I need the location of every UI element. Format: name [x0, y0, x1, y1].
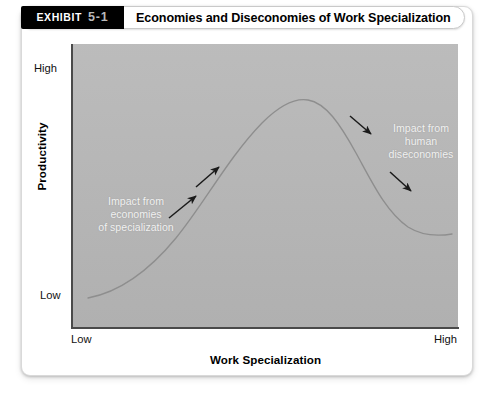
exhibit-badge-number: 5-1: [88, 11, 108, 24]
exhibit-figure: Impact from economies of specialization …: [0, 0, 500, 393]
y-axis-tick-low: Low: [40, 289, 61, 301]
exhibit-badge-word: EXHIBIT: [36, 12, 82, 23]
x-axis-title: Work Specialization: [73, 353, 458, 366]
annotation-economies: Impact from economies of specialization: [73, 195, 199, 235]
annotation-diseconomies: Impact from human diseconomies: [367, 122, 475, 162]
y-axis-title: Productivity: [35, 107, 48, 207]
x-axis-line: [71, 327, 459, 329]
y-axis-tick-high: High: [34, 62, 57, 74]
exhibit-title: Economies and Diseconomies of Work Speci…: [136, 6, 451, 29]
x-axis-tick-high: High: [434, 333, 457, 345]
exhibit-badge: EXHIBIT 5-1: [21, 6, 124, 29]
x-axis-tick-low: Low: [71, 333, 92, 345]
plot-area: [73, 44, 458, 327]
y-axis-line: [71, 44, 73, 329]
